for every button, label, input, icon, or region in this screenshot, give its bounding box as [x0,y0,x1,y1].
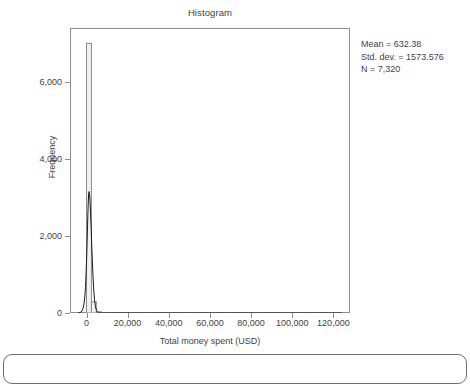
y-tick-mark-0 [65,313,70,314]
plot-area [70,28,350,313]
x-axis-label: Total money spent (USD) [70,336,350,346]
statistics-annotation: Mean = 632.38 Std. dev. = 1573.576 N = 7… [361,38,444,76]
stat-std-dev: Std. dev. = 1573.576 [361,51,444,64]
chart-title: Histogram [70,7,350,18]
bottom-panel [3,354,467,384]
y-tick-label-1: 2,000 [16,231,62,241]
x-tick-label-6: 120,000 [303,318,363,328]
y-tick-label-2: 4,000 [16,154,62,164]
stat-mean: Mean = 632.38 [361,38,444,51]
y-tick-label-0: 0 [16,308,62,318]
stat-n: N = 7,320 [361,63,444,76]
histogram-bar [87,43,92,313]
histogram-bars [87,43,102,313]
y-tick-label-3: 6,000 [16,77,62,87]
normal-curve [78,192,342,314]
